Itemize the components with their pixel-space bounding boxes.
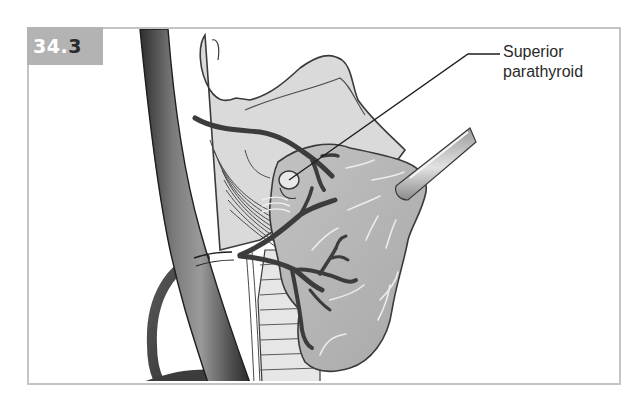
callout-line-2: parathyroid <box>503 62 583 82</box>
callout-superior-parathyroid: Superior parathyroid <box>503 42 583 82</box>
figure-number-suffix: 3 <box>68 35 82 57</box>
figure-number-prefix: 34. <box>33 35 68 57</box>
callout-line-1: Superior <box>503 42 583 62</box>
figure-number-badge: 34.3 <box>27 27 103 65</box>
